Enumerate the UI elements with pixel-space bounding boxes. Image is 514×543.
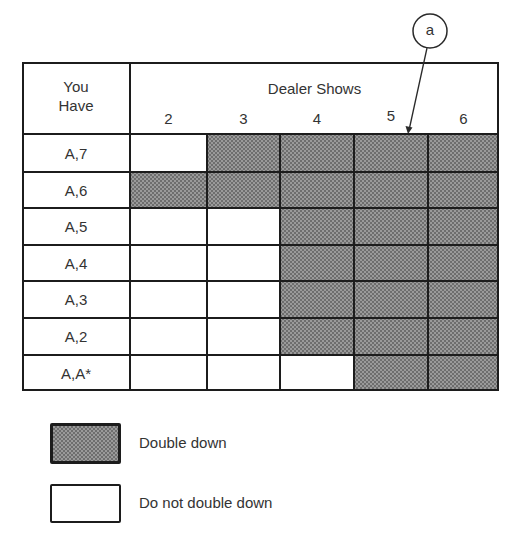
legend-swatch-no-double	[50, 484, 121, 523]
legend-label-no-double: Do not double down	[139, 494, 272, 511]
callout-label: a	[413, 21, 447, 38]
legend-swatch-double-down	[50, 423, 121, 464]
legend-label-double-down: Double down	[139, 434, 227, 451]
double-down-chart: You Have Dealer Shows 23456 A,7A,6A,5A,4…	[0, 0, 514, 543]
table-border	[22, 62, 499, 391]
